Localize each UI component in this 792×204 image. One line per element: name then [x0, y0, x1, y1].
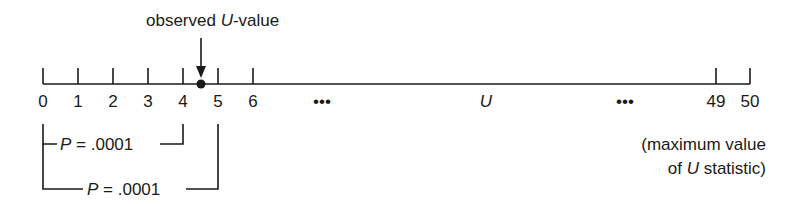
bracket-1-label: P = .0001: [60, 135, 133, 154]
u-statistic-diagram: observed U-value 01234564950 ••• U ••• P…: [0, 0, 792, 204]
bracket-2-label: P = .0001: [87, 180, 160, 199]
bracket-1-left: [43, 124, 57, 144]
tick-label-4: 4: [178, 92, 187, 111]
bracket-2-right: [186, 124, 218, 189]
max-note-line2: of U statistic): [668, 159, 766, 178]
tick-label-2: 2: [108, 92, 117, 111]
max-note-line1: (maximum value: [641, 135, 766, 154]
observed-point: [197, 80, 206, 89]
tick-label-1: 1: [73, 92, 82, 111]
axis-variable-u: U: [480, 92, 493, 111]
tick-label-3: 3: [143, 92, 152, 111]
ellipsis-right: •••: [616, 92, 634, 111]
tick-label-0: 0: [38, 92, 47, 111]
observed-u-value-label: observed U-value: [146, 11, 279, 30]
observed-arrow-head-icon: [196, 66, 206, 78]
tick-label-49: 49: [707, 92, 726, 111]
tick-label-6: 6: [248, 92, 257, 111]
tick-label-50: 50: [741, 92, 760, 111]
bracket-1-right: [160, 124, 183, 144]
tick-label-5: 5: [213, 92, 222, 111]
ellipsis-left: •••: [313, 92, 331, 111]
